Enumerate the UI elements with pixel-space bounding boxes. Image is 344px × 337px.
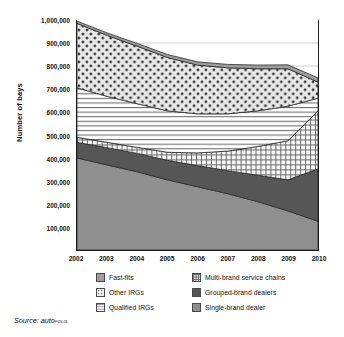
- legend-label: Fast-fits: [109, 274, 134, 281]
- chart-container: Number of bays 1,000,000900,000800,00070…: [0, 0, 344, 337]
- y-tick-300000: 300,000: [16, 178, 70, 185]
- legend-item-fast-fits[interactable]: Fast-fits: [96, 273, 192, 282]
- legend-label: Single-brand dealer: [205, 304, 265, 311]
- y-tick-1000000: 1,000,000: [16, 17, 70, 24]
- y-tick-400000: 400,000: [16, 155, 70, 162]
- legend-item-multi-brand-service-chains[interactable]: Multi-brand service chains: [192, 273, 336, 282]
- legend-item-grouped-brand-dealers[interactable]: Grouped-brand dealers: [192, 288, 336, 297]
- legend-label: Multi-brand service chains: [205, 274, 285, 281]
- x-tick-2007: 2007: [221, 255, 236, 262]
- legend-swatch-icon: [96, 288, 105, 297]
- stacked-area-svg: [77, 20, 318, 250]
- x-tick-2009: 2009: [281, 255, 296, 262]
- legend-swatch-icon: [96, 303, 105, 312]
- y-tick-900000: 900,000: [16, 40, 70, 47]
- area-bands: [77, 21, 318, 250]
- y-tick-800000: 800,000: [16, 63, 70, 70]
- plot-area: [76, 20, 319, 251]
- legend-swatch-icon: [192, 288, 201, 297]
- legend-swatch-icon: [192, 273, 201, 282]
- legend-swatch-icon: [96, 273, 105, 282]
- y-tick-500000: 500,000: [16, 132, 70, 139]
- y-axis-tick-labels: 1,000,000900,000800,000700,000600,000500…: [14, 0, 70, 260]
- y-tick-200000: 200,000: [16, 201, 70, 208]
- source-brand: auto: [41, 316, 55, 325]
- y-tick-100000: 100,000: [16, 224, 70, 231]
- source-prefix: Source:: [14, 316, 41, 325]
- legend-label: Grouped-brand dealers: [205, 289, 276, 296]
- x-tick-2004: 2004: [129, 255, 144, 262]
- source-note: Source: autopolis: [14, 316, 68, 325]
- y-tick-600000: 600,000: [16, 109, 70, 116]
- legend-item-qualified-irgs[interactable]: Qualified IRGs: [96, 303, 192, 312]
- y-tick-700000: 700,000: [16, 86, 70, 93]
- x-tick-2003: 2003: [99, 255, 114, 262]
- x-tick-2006: 2006: [190, 255, 205, 262]
- legend-item-other-irgs[interactable]: Other IRGs: [96, 288, 192, 297]
- legend-item-single-brand-dealer[interactable]: Single-brand dealer: [192, 303, 336, 312]
- legend-label: Other IRGs: [109, 289, 144, 296]
- x-tick-2005: 2005: [160, 255, 175, 262]
- x-tick-2002: 2002: [69, 255, 84, 262]
- chart-legend: Fast-fitsMulti-brand service chainsOther…: [96, 270, 336, 315]
- legend-label: Qualified IRGs: [109, 304, 154, 311]
- x-tick-2010: 2010: [312, 255, 327, 262]
- source-brand-caps: polis: [55, 317, 68, 324]
- x-axis-tick-labels: 200220032004200520062007200820092010: [0, 255, 344, 269]
- x-tick-2008: 2008: [251, 255, 266, 262]
- legend-swatch-icon: [192, 303, 201, 312]
